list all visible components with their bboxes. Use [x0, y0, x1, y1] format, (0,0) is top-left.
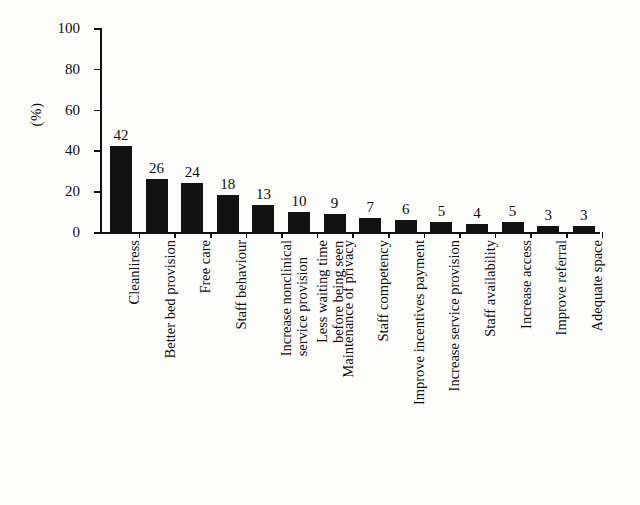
bar — [110, 146, 132, 232]
x-category-label: Free care — [197, 240, 213, 294]
y-tick-mark — [94, 110, 100, 112]
x-category-label-line: Staff availability — [482, 240, 498, 337]
bar — [430, 222, 452, 232]
y-tick-mark — [94, 150, 100, 152]
bar — [181, 183, 203, 232]
x-category-label: Adequate space — [589, 240, 605, 331]
bar — [146, 179, 168, 232]
x-category-label: Better bed provision — [162, 240, 178, 358]
bar-value-label: 42 — [98, 128, 144, 143]
x-tick-mark — [317, 232, 319, 238]
x-category-label: Improve referral — [553, 240, 569, 335]
x-category-label-line: service provision — [295, 240, 311, 356]
y-tick-label: 40 — [40, 143, 80, 158]
bar — [466, 224, 488, 232]
x-tick-mark — [530, 232, 532, 238]
x-category-label: Increase access — [518, 240, 534, 329]
y-tick-label: 100 — [40, 21, 80, 36]
x-tick-mark — [210, 232, 212, 238]
bar — [252, 205, 274, 232]
x-category-label-line: Free care — [197, 240, 213, 294]
x-category-label-line: Increase service provision — [446, 240, 462, 391]
y-tick-label: 0 — [40, 225, 80, 240]
x-category-label: Cleanliress — [126, 240, 142, 304]
x-tick-mark — [424, 232, 426, 238]
x-tick-mark — [352, 232, 354, 238]
x-category-label-line: Maintenance of privacy — [340, 240, 356, 378]
x-category-label-line: Adequate space — [589, 240, 605, 331]
y-tick-label: 20 — [40, 184, 80, 199]
x-category-label-line: Improve incentives payment — [411, 240, 427, 405]
x-tick-mark — [174, 232, 176, 238]
bar — [217, 195, 239, 232]
y-tick-mark — [94, 191, 100, 193]
bar-value-label: 3 — [561, 208, 607, 223]
y-tick-mark — [94, 28, 100, 30]
plot-area: 020406080100 42262418131097654533 — [100, 28, 600, 232]
x-tick-mark — [246, 232, 248, 238]
x-category-label-line: Cleanliress — [126, 240, 142, 304]
y-tick-mark — [94, 232, 100, 234]
bar — [288, 212, 310, 232]
bar-chart: (%) 020406080100 42262418131097654533 Cl… — [0, 0, 640, 505]
bar — [573, 226, 595, 232]
x-category-label: Maintenance of privacy — [340, 240, 356, 378]
bar — [324, 214, 346, 232]
bar — [395, 220, 417, 232]
x-category-label: Staff availability — [482, 240, 498, 337]
x-category-label-line: Staff behaviour — [233, 240, 249, 330]
bar — [502, 222, 524, 232]
bar — [537, 226, 559, 232]
x-category-label: Increase nonclinicalservice provision — [279, 240, 311, 356]
x-category-label: Increase service provision — [446, 240, 462, 391]
x-tick-mark — [566, 232, 568, 238]
x-tick-mark — [459, 232, 461, 238]
x-tick-mark — [281, 232, 283, 238]
y-tick-label: 80 — [40, 61, 80, 76]
x-tick-mark — [602, 232, 604, 238]
x-category-label: Staff competency — [375, 240, 391, 342]
x-tick-mark — [388, 232, 390, 238]
x-category-label-line: Improve referral — [553, 240, 569, 335]
y-tick-mark — [94, 69, 100, 71]
x-category-label-line: Staff competency — [375, 240, 391, 342]
x-category-label-line: Better bed provision — [162, 240, 178, 358]
x-tick-mark — [495, 232, 497, 238]
y-tick-label: 60 — [40, 102, 80, 117]
x-category-label: Staff behaviour — [233, 240, 249, 330]
x-category-label-line: Increase nonclinical — [278, 240, 294, 356]
x-category-label: Improve incentives payment — [411, 240, 427, 405]
x-category-label-line: Increase access — [518, 240, 534, 329]
bar — [359, 218, 381, 232]
x-category-label-line: Less waiting time — [314, 240, 330, 343]
x-tick-mark — [139, 232, 141, 238]
